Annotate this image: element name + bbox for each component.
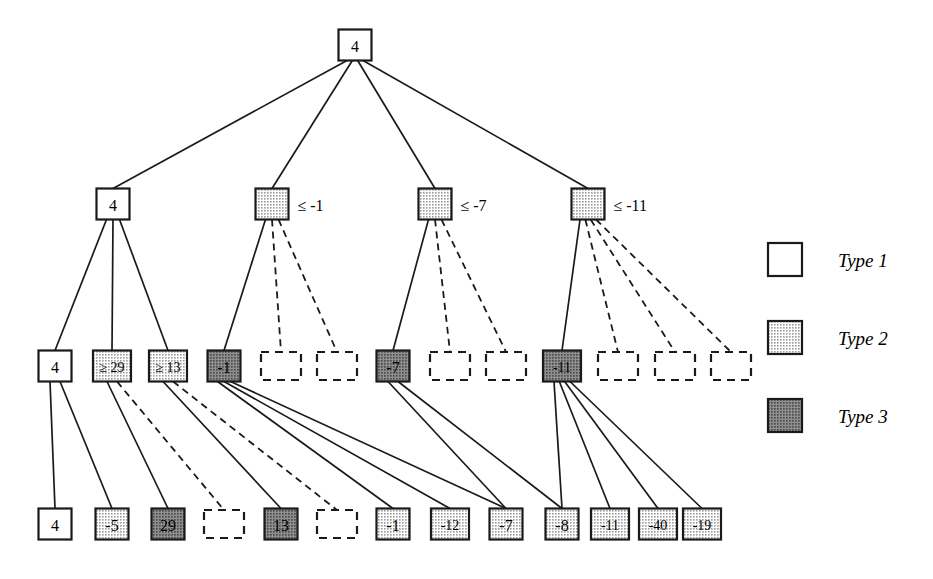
legend-swatch-type2 [768,321,802,354]
node-box [683,509,721,540]
node-box [208,351,241,382]
tree-edge [224,382,450,509]
node-box [377,509,410,540]
node-box [39,509,72,540]
tree-edge [559,382,610,509]
tree-node[interactable]: -11 [591,509,629,540]
legend-label: Type 3 [838,406,888,427]
node-box [572,189,605,220]
node-box [543,351,581,382]
node-box [152,509,185,540]
node-box [317,352,357,380]
legend-item: Type 2 [768,321,888,354]
legend-layer: Type 1Type 2Type 3 [768,243,888,432]
legend-item: Type 3 [768,399,888,432]
tree-edge [554,382,562,509]
tree-node[interactable]: -11 [543,351,581,382]
tree-node[interactable]: 13 [265,509,298,540]
node-box [204,510,244,538]
tree-node-placeholder[interactable] [486,352,526,380]
node-box [598,352,638,380]
tree-node[interactable]: ≤ -1 [256,189,324,220]
tree-node-placeholder[interactable] [598,352,638,380]
node-box [546,509,579,540]
node-box [261,352,301,380]
tree-edge [442,220,507,353]
tree-edge [591,220,675,353]
tree-node-placeholder[interactable] [711,352,751,380]
node-box [591,509,629,540]
node-box [256,189,289,220]
node-box [93,351,131,382]
tree-edge [435,220,450,353]
node-box [711,352,751,380]
tree-edge [55,220,107,351]
node-box [149,351,187,382]
tree-node[interactable]: ≤ -11 [572,189,648,220]
tree-edge [112,220,113,351]
tree-node[interactable]: -8 [546,509,579,540]
node-box [265,509,298,540]
node-box [486,352,526,380]
tree-node-placeholder[interactable] [204,510,244,538]
node-box [96,509,129,540]
node-box [377,351,410,382]
tree-node[interactable]: -40 [639,509,677,540]
tree-edge [60,382,112,509]
tree-edge [585,220,618,353]
node-box [317,510,357,538]
node-box [39,351,72,382]
tree-node[interactable]: 4 [97,189,130,220]
tree-edge [393,220,429,351]
node-box [419,189,452,220]
tree-edge [231,382,507,509]
tree-edge [570,382,702,509]
tree-node-placeholder[interactable] [317,352,357,380]
tree-edge [107,382,168,509]
tree-node[interactable]: -12 [431,509,469,540]
tree-node[interactable]: ≥ 29 [93,351,131,382]
node-box [339,30,372,61]
tree-edge [224,220,266,351]
tree-edge [272,220,281,353]
tree-edge [173,382,337,511]
diagram-canvas: 44≤ -1≤ -7≤ -114≥ 29≥ 13-1-7-114-52913-1… [0,0,933,579]
node-box [655,352,695,380]
tree-node-placeholder[interactable] [430,352,470,380]
tree-node[interactable]: -1 [377,509,410,540]
edge-layer [50,61,731,511]
tree-edge [596,220,731,353]
tree-node[interactable]: -5 [96,509,129,540]
tree-edge [565,382,658,509]
tree-node[interactable]: -19 [683,509,721,540]
tree-edge [388,382,506,509]
tree-node[interactable]: 29 [152,509,185,540]
node-box [490,509,523,540]
tree-node[interactable]: 4 [339,30,372,61]
node-box [639,509,677,540]
tree-node[interactable]: 4 [39,509,72,540]
tree-node[interactable]: -7 [490,509,523,540]
tree-edge [117,382,224,511]
tree-edge [279,220,338,353]
legend-label: Type 2 [838,328,888,349]
tree-node-placeholder[interactable] [261,352,301,380]
tree-edge [562,220,580,351]
tree-node-placeholder[interactable] [317,510,357,538]
legend-label: Type 1 [838,250,888,271]
tree-node[interactable]: ≤ -7 [419,189,487,220]
tree-node-placeholder[interactable] [655,352,695,380]
tree-node[interactable]: ≥ 13 [149,351,187,382]
node-threshold-label: ≤ -7 [461,197,487,214]
tree-edge [163,382,281,509]
tree-node[interactable]: -1 [208,351,241,382]
node-threshold-label: ≤ -11 [614,197,648,214]
node-threshold-label: ≤ -1 [298,197,324,214]
tree-node[interactable]: 4 [39,351,72,382]
node-box [97,189,130,220]
tree-diagram-svg: 44≤ -1≤ -7≤ -114≥ 29≥ 13-1-7-114-52913-1… [0,0,933,579]
legend-item: Type 1 [768,243,888,276]
tree-node[interactable]: -7 [377,351,410,382]
legend-swatch-type1 [768,243,802,276]
node-box [430,352,470,380]
